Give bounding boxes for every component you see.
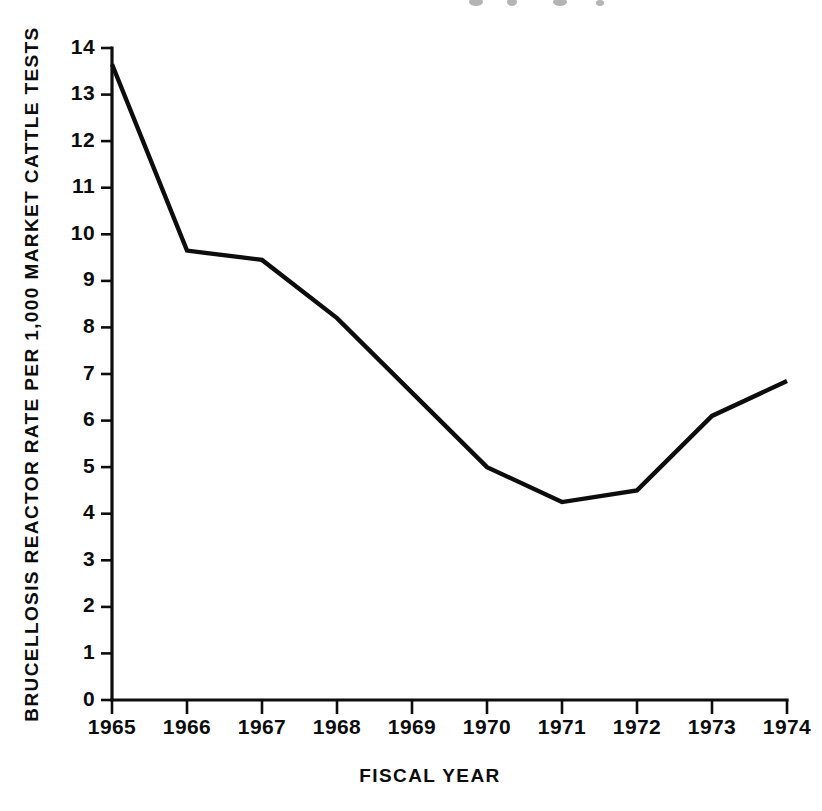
y-tick-label: 3: [83, 547, 95, 570]
y-tick-label: 11: [72, 174, 95, 197]
y-tick-label: 12: [71, 128, 95, 151]
y-tick-label: 0: [83, 687, 95, 710]
y-tick-label: 7: [83, 361, 95, 384]
x-tick-label: 1974: [763, 715, 811, 738]
x-axis-ticks: [112, 700, 787, 714]
y-tick-label: 9: [83, 267, 95, 290]
y-tick-label: 2: [83, 593, 95, 616]
y-tick-label: 10: [71, 221, 95, 244]
y-axis-tick-labels: 0 1 2 3 4 5 6 7 8 9 10 11 12 13 14: [71, 35, 95, 710]
line-chart: BRUCELLOSIS REACTOR RATE PER 1,000 MARKE…: [0, 0, 822, 811]
y-tick-label: 1: [83, 640, 95, 663]
x-tick-label: 1968: [313, 715, 361, 738]
y-tick-label: 4: [83, 500, 95, 523]
x-axis-title: FISCAL YEAR: [359, 765, 500, 786]
x-tick-label: 1973: [688, 715, 736, 738]
x-tick-label: 1972: [613, 715, 661, 738]
x-tick-label: 1965: [88, 715, 136, 738]
y-tick-label: 14: [71, 35, 95, 58]
y-axis-ticks: [101, 48, 112, 700]
data-series-line: [112, 64, 787, 502]
x-tick-label: 1969: [388, 715, 436, 738]
y-axis-title: BRUCELLOSIS REACTOR RATE PER 1,000 MARKE…: [21, 26, 42, 721]
top-edge-ink-fragments: [469, 0, 604, 6]
y-tick-label: 13: [71, 81, 95, 104]
x-tick-label: 1967: [238, 715, 286, 738]
x-axis-tick-labels: 1965 1966 1967 1968 1969 1970 1971 1972 …: [88, 715, 811, 738]
x-tick-label: 1971: [538, 715, 586, 738]
x-tick-label: 1966: [163, 715, 211, 738]
y-tick-label: 8: [83, 314, 95, 337]
y-tick-label: 6: [83, 407, 95, 430]
y-tick-label: 5: [83, 454, 95, 477]
chart-figure: BRUCELLOSIS REACTOR RATE PER 1,000 MARKE…: [0, 0, 822, 811]
x-tick-label: 1970: [463, 715, 511, 738]
x-axis: 1965 1966 1967 1968 1969 1970 1971 1972 …: [88, 700, 811, 738]
y-axis: 0 1 2 3 4 5 6 7 8 9 10 11 12 13 14: [71, 35, 112, 710]
